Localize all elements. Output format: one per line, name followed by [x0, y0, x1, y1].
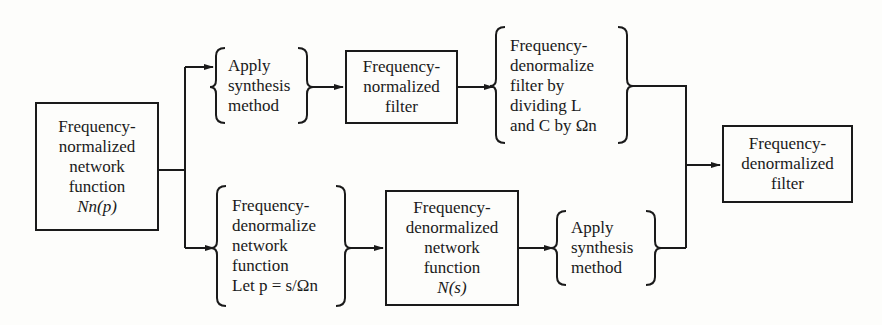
node-line: Frequency- [749, 134, 826, 154]
node-line: Apply [228, 56, 271, 76]
brace-left-bottom-step2 [551, 211, 566, 285]
node-normalized-filter: Frequency- normalized filter [345, 50, 458, 124]
node-line: Frequency- [232, 196, 309, 216]
node-top-apply-synthesis: Apply synthesis method [228, 50, 304, 122]
node-line: and C by Ωn [510, 116, 597, 136]
node-line: denormalized [406, 218, 499, 238]
node-bottom-denormalize-network: Frequency- denormalize network function … [232, 190, 344, 302]
node-line: Frequency- [510, 36, 587, 56]
node-denormalized-network-function: Frequency- denormalized network function… [385, 190, 519, 306]
node-line: Frequency- [58, 117, 135, 137]
node-line: Apply [571, 218, 614, 238]
node-line: dividing L [510, 96, 581, 116]
node-line: normalized [59, 137, 135, 157]
node-line: function [232, 256, 289, 276]
node-line: denormalize [510, 56, 594, 76]
node-line: normalized [363, 77, 439, 97]
node-line-math: N(s) [437, 278, 466, 298]
brace-left-bottom-step1 [211, 186, 226, 306]
node-line: network [69, 157, 125, 177]
brace-left-top-step2 [490, 27, 505, 143]
node-line: function [424, 258, 481, 278]
node-line: network [232, 236, 288, 256]
node-line: function [69, 177, 126, 197]
node-line: network [424, 238, 480, 258]
node-line: denormalized [741, 154, 834, 174]
node-line: denormalize [232, 216, 316, 236]
node-normalized-network-function: Frequency- normalized network function N… [35, 102, 159, 231]
node-line: filter [385, 97, 418, 117]
node-line: method [228, 96, 279, 116]
node-bottom-apply-synthesis: Apply synthesis method [571, 213, 651, 283]
node-denormalized-filter: Frequency- denormalized filter [722, 125, 853, 203]
node-line: synthesis [228, 76, 290, 96]
node-line: filter [771, 174, 804, 194]
brace-left-top-step1 [210, 48, 225, 123]
node-line-math: Nn(p) [77, 197, 117, 217]
node-line: Let p = s/Ωn [232, 276, 318, 296]
node-line: filter by [510, 76, 564, 96]
node-line: synthesis [571, 238, 633, 258]
node-line: method [571, 258, 622, 278]
node-line: Frequency- [413, 198, 490, 218]
node-top-denormalize-filter: Frequency- denormalize filter by dividin… [510, 30, 625, 142]
node-line: Frequency- [363, 57, 440, 77]
